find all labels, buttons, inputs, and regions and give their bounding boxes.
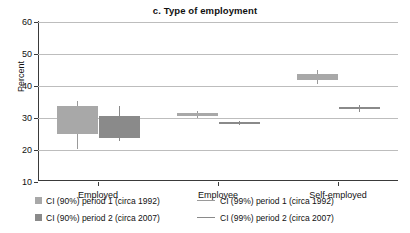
ci90-box-self-employed-period1 xyxy=(297,74,338,80)
legend-item-ci99-period1[interactable]: CI (99%) period 1 (circa 1992) xyxy=(197,196,375,206)
legend-swatch-box-icon xyxy=(35,197,42,204)
y-tick-mark xyxy=(34,22,38,23)
y-tick-mark xyxy=(34,54,38,55)
ci90-box-self-employed-period2 xyxy=(339,107,380,110)
x-tick-mark-self-employed xyxy=(338,182,339,186)
legend-label: CI (99%) period 2 (circa 2007) xyxy=(220,213,334,223)
x-tick-mark-employee xyxy=(218,182,219,186)
y-tick-mark xyxy=(34,86,38,87)
y-tick-label: 60 xyxy=(22,17,32,27)
chart-figure: c. Type of employment Percent 60 50 40 3… xyxy=(0,0,410,233)
y-tick-label: 10 xyxy=(22,177,32,187)
legend-row-period2: CI (90%) period 2 (circa 2007) CI (99%) … xyxy=(0,209,410,226)
gridline xyxy=(38,22,398,23)
legend-item-ci90-period2[interactable]: CI (90%) period 2 (circa 2007) xyxy=(35,213,197,223)
y-tick-label: 50 xyxy=(22,49,32,59)
ci90-box-employed-period2 xyxy=(99,116,140,138)
gridline xyxy=(38,54,398,55)
legend-swatch-line-icon xyxy=(197,200,215,202)
y-tick-mark xyxy=(34,150,38,151)
gridline xyxy=(38,86,398,87)
legend-item-ci90-period1[interactable]: CI (90%) period 1 (circa 1992) xyxy=(35,196,197,206)
ci90-box-employee-period2 xyxy=(219,122,260,124)
legend-row-period1: CI (90%) period 1 (circa 1992) CI (99%) … xyxy=(0,192,410,209)
x-tick-mark-employed xyxy=(98,182,99,186)
legend-label: CI (90%) period 2 (circa 2007) xyxy=(46,213,160,223)
y-tick-label: 20 xyxy=(22,145,32,155)
gridline xyxy=(38,150,398,151)
ci90-box-employee-period1 xyxy=(177,113,218,116)
legend-label: CI (90%) period 1 (circa 1992) xyxy=(46,196,160,206)
chart-title: c. Type of employment xyxy=(0,5,410,16)
legend-label: CI (99%) period 1 (circa 1992) xyxy=(220,196,334,206)
plot-area: Percent 60 50 40 30 20 10 xyxy=(38,22,398,180)
ci90-box-employed-period1 xyxy=(57,106,98,134)
legend-swatch-box-icon xyxy=(35,214,42,221)
y-tick-label: 40 xyxy=(22,81,32,91)
y-tick-mark xyxy=(34,118,38,119)
legend-item-ci99-period2[interactable]: CI (99%) period 2 (circa 2007) xyxy=(197,213,375,223)
chart-legend: CI (90%) period 1 (circa 1992) CI (99%) … xyxy=(0,192,410,226)
y-tick-label: 30 xyxy=(22,113,32,123)
legend-swatch-line-icon xyxy=(197,217,215,219)
y-tick-mark xyxy=(34,182,38,183)
